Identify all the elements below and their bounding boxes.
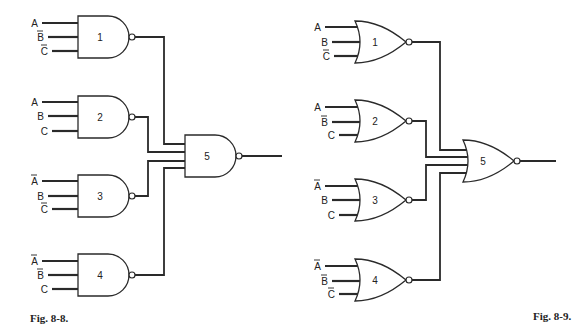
nand-gate-5: 5 [185, 135, 242, 177]
nor-gate-3: ABC3 [314, 179, 412, 221]
gate-body [78, 254, 129, 296]
signal-wire [135, 161, 185, 196]
gate-number: 5 [204, 151, 210, 162]
input-label: B [37, 191, 44, 202]
input-label: B [37, 32, 44, 43]
input-label: A [314, 22, 321, 33]
inversion-bubble [129, 114, 135, 120]
nand-gate-3: ABC3 [31, 175, 135, 217]
nor-gate-1: ABC1 [314, 21, 412, 63]
signal-wire [412, 42, 468, 150]
gate-body [355, 259, 406, 301]
input-label: C [323, 51, 330, 62]
input-label: B [37, 270, 44, 281]
inversion-bubble [129, 193, 135, 199]
inversion-bubble [129, 34, 135, 40]
signal-wire [135, 168, 185, 275]
gate-body [78, 175, 129, 217]
gate-number: 5 [480, 156, 486, 167]
input-label: C [41, 126, 48, 137]
input-label: A [31, 97, 38, 108]
input-label: C [328, 130, 335, 141]
input-label: A [31, 176, 38, 187]
signal-wire [135, 37, 185, 144]
gate-body [78, 16, 129, 58]
signal-wire [135, 117, 185, 152]
inversion-bubble [406, 197, 412, 203]
input-label: A [31, 256, 38, 267]
nor-gate-4: ABC4 [314, 259, 412, 301]
gate-number: 3 [372, 195, 378, 206]
gate-number: 2 [372, 116, 378, 127]
fig-8-9: ABC1ABC2ABC3ABC45Fig. 8-9. [314, 21, 571, 322]
input-label: B [321, 276, 328, 287]
gate-body [463, 140, 514, 182]
gate-body [185, 135, 236, 177]
input-label: B [321, 195, 328, 206]
input-label: C [328, 210, 335, 221]
gate-body [355, 179, 406, 221]
logic-diagram-canvas: ABC1ABC2ABC3ABC45Fig. 8-8.ABC1ABC2ABC3AB… [0, 0, 585, 325]
gate-number: 4 [97, 270, 103, 281]
input-label: A [314, 181, 321, 192]
gate-body [78, 96, 129, 138]
nand-gate-4: ABC4 [31, 254, 135, 296]
fig-8-8: ABC1ABC2ABC3ABC45Fig. 8-8. [30, 16, 282, 324]
logic-diagram: ABC1ABC2ABC3ABC45Fig. 8-8.ABC1ABC2ABC3AB… [0, 0, 585, 325]
input-label: A [314, 102, 321, 113]
gate-body [355, 100, 406, 142]
nand-gate-2: ABC2 [31, 96, 135, 138]
inversion-bubble [406, 118, 412, 124]
input-label: B [321, 117, 328, 128]
figure-caption: Fig. 8-9. [533, 310, 571, 322]
nand-gate-1: ABC1 [31, 16, 135, 58]
input-label: C [41, 46, 48, 57]
inversion-bubble [514, 158, 520, 164]
input-label: B [37, 111, 44, 122]
gate-number: 3 [97, 191, 103, 202]
signal-wire [412, 173, 467, 280]
input-label: A [314, 261, 321, 272]
input-label: A [31, 18, 38, 29]
inversion-bubble [129, 272, 135, 278]
gate-number: 1 [372, 37, 378, 48]
gate-body [355, 21, 406, 63]
inversion-bubble [406, 277, 412, 283]
input-label: C [41, 204, 48, 215]
nor-gate-5: 5 [463, 140, 520, 182]
gate-number: 4 [372, 275, 378, 286]
figure-caption: Fig. 8-8. [30, 312, 68, 324]
gate-number: 2 [97, 112, 103, 123]
inversion-bubble [406, 39, 412, 45]
inversion-bubble [236, 153, 242, 159]
input-label: C [41, 284, 48, 295]
nor-gate-2: ABC2 [314, 100, 412, 142]
input-label: B [321, 37, 328, 48]
input-label: C [328, 289, 335, 300]
gate-number: 1 [97, 32, 103, 43]
